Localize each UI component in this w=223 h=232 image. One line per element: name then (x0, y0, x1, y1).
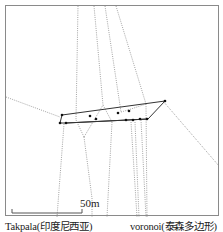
caption-left: Takpala(印度尼西亚) (5, 218, 92, 232)
voronoi-diagram (0, 0, 223, 232)
voronoi-edges (6, 6, 219, 217)
scale-bar-label: 50m (80, 197, 100, 209)
caption-right: voronoi(泰森多边形) (130, 218, 217, 232)
scale-bar (12, 209, 82, 213)
